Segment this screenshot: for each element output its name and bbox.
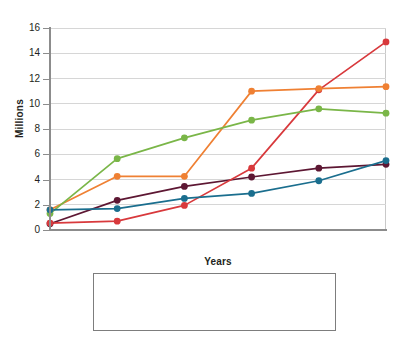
series-line-germany — [50, 109, 386, 214]
data-point — [181, 195, 188, 202]
y-tick-mark — [43, 230, 50, 231]
data-point — [248, 165, 255, 172]
y-tick-label: 2 — [0, 200, 40, 210]
data-point — [248, 117, 255, 124]
y-tick-label: 16 — [0, 23, 40, 33]
x-axis-line — [49, 229, 387, 231]
data-point — [383, 157, 390, 164]
line-chart-figure: 1614121086420 Millions Years — [0, 0, 410, 355]
data-point — [315, 165, 322, 172]
y-tick-label: 0 — [0, 225, 40, 235]
y-tick-label: 12 — [0, 74, 40, 84]
data-point — [315, 105, 322, 112]
data-point — [248, 88, 255, 95]
data-point — [181, 173, 188, 180]
data-point — [114, 155, 121, 162]
y-tick-mark — [43, 53, 50, 54]
series-line-soviet-union — [50, 87, 386, 210]
y-tick-mark — [43, 104, 50, 105]
plot-area — [50, 28, 386, 230]
data-point — [181, 134, 188, 141]
data-point — [114, 173, 121, 180]
data-point — [315, 85, 322, 92]
y-tick-mark — [43, 129, 50, 130]
chart-legend — [93, 273, 336, 331]
data-point — [383, 83, 390, 90]
y-tick-mark — [43, 28, 50, 29]
data-point — [181, 183, 188, 190]
plot-canvas — [50, 28, 386, 230]
data-point — [114, 197, 121, 204]
data-point — [248, 174, 255, 181]
y-tick-mark — [43, 154, 50, 155]
x-axis-title: Years — [50, 256, 386, 267]
series-lines — [50, 42, 386, 224]
data-point — [181, 202, 188, 209]
y-tick-label: 4 — [0, 175, 40, 185]
data-point — [114, 205, 121, 212]
data-point — [114, 218, 121, 225]
y-axis-title: Millions — [14, 84, 25, 154]
y-tick-label: 14 — [0, 48, 40, 58]
data-point — [248, 190, 255, 197]
y-tick-mark — [43, 205, 50, 206]
gridlines — [50, 28, 386, 205]
data-point — [383, 38, 390, 45]
data-point — [315, 177, 322, 184]
y-tick-mark — [43, 180, 50, 181]
data-point — [383, 110, 390, 117]
y-tick-mark — [43, 79, 50, 80]
